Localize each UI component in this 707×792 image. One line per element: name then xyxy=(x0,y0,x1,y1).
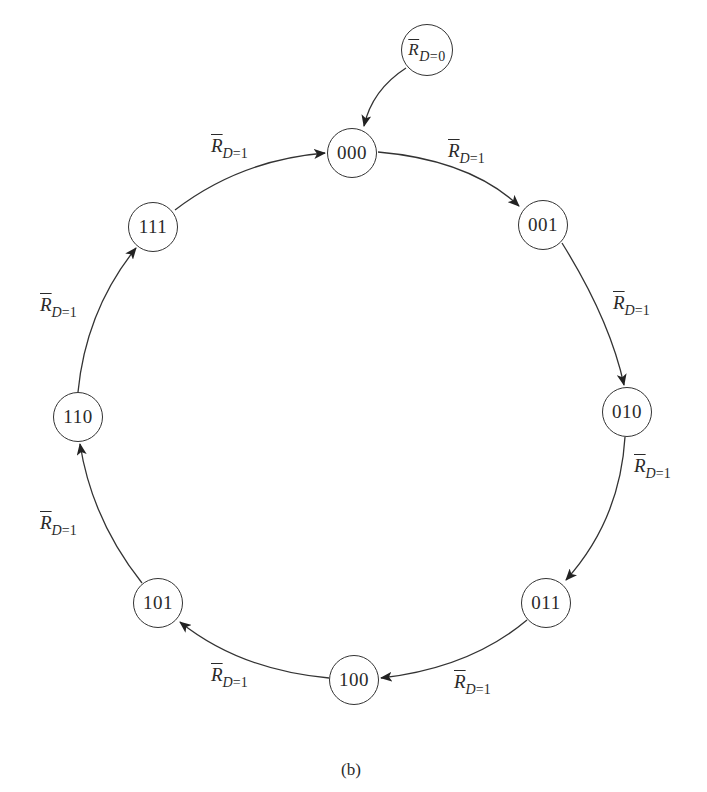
state-node-101: 101 xyxy=(133,578,183,628)
state-node-011: 011 xyxy=(521,578,571,628)
transition-label-101-110: RD=1 xyxy=(40,512,77,534)
transition-label-111-000: RD=1 xyxy=(211,135,248,157)
arrow-010-to-011 xyxy=(566,437,625,580)
state-label: 011 xyxy=(531,592,560,614)
state-label: 100 xyxy=(339,669,369,691)
state-label: 110 xyxy=(63,406,92,428)
initial-state-node: RD=0 xyxy=(401,24,453,76)
state-node-110: 110 xyxy=(53,392,103,442)
transition-label-010-011: RD=1 xyxy=(634,455,671,477)
state-node-000: 000 xyxy=(327,128,377,178)
state-label: 111 xyxy=(139,216,168,238)
arrow-110-to-111 xyxy=(78,248,136,392)
arrow-001-to-010 xyxy=(562,243,624,385)
state-label: 101 xyxy=(143,592,173,614)
transition-label-011-100: RD=1 xyxy=(454,671,491,693)
arrow-101-to-110 xyxy=(80,444,142,583)
state-node-010: 010 xyxy=(602,387,652,437)
state-label: 001 xyxy=(528,214,558,236)
transition-label-110-111: RD=1 xyxy=(40,294,77,316)
arrow-111-to-000 xyxy=(175,153,325,210)
figure-caption: (b) xyxy=(341,760,361,780)
transition-label-001-010: RD=1 xyxy=(613,292,650,314)
arrow-init-to-000 xyxy=(364,68,406,126)
state-label: 000 xyxy=(337,142,367,164)
state-node-111: 111 xyxy=(128,202,178,252)
state-node-100: 100 xyxy=(329,655,379,705)
arrow-100-to-101 xyxy=(180,622,329,678)
transition-label-000-001: RD=1 xyxy=(448,140,485,162)
initial-condition-label: RD=0 xyxy=(408,40,445,60)
transition-label-100-101: RD=1 xyxy=(211,664,248,686)
arrow-011-to-100 xyxy=(381,620,527,678)
state-node-001: 001 xyxy=(518,200,568,250)
state-label: 010 xyxy=(612,401,642,423)
